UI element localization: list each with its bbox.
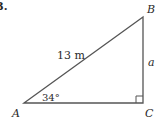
vertex-label-a: A [11, 107, 20, 120]
vertex-label-b: B [146, 3, 155, 16]
angle-label: 34° [42, 92, 60, 103]
vertex-label-c: C [145, 107, 154, 120]
right-triangle-diagram: 3. B A C 13 m a 34° [0, 0, 162, 139]
problem-number: 3. [0, 0, 7, 13]
hypotenuse-label: 13 m [57, 49, 85, 62]
side-a-label: a [148, 56, 155, 69]
right-angle-marker [136, 96, 143, 103]
